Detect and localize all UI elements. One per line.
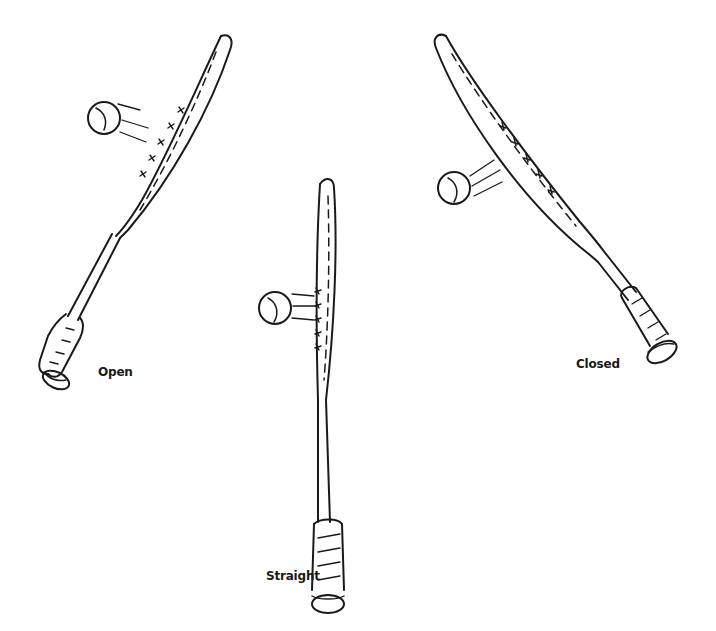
racket-closed [435,35,681,368]
label-open: Open [98,365,133,379]
label-straight: Straight [266,569,320,583]
label-closed: Closed [576,357,620,371]
ball-closed [438,160,502,204]
racket-open [39,35,231,393]
ball-open [88,102,148,142]
racket-straight [312,179,344,613]
ball-straight [259,292,318,324]
